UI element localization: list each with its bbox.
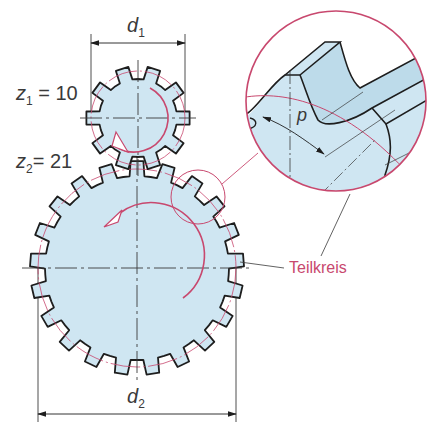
magnified-detail — [240, 11, 427, 200]
large-gear — [22, 153, 252, 383]
d2-label: d2 — [127, 385, 145, 411]
z1-label: z1 = 10 — [16, 82, 78, 108]
z2-label: z2= 21 — [16, 150, 72, 176]
small-gear — [80, 60, 196, 176]
gear-diagram: d1 z1 = 10 z2= 21 d2 p Teilkreis — [0, 0, 427, 432]
teilkreis-leaders — [240, 194, 350, 268]
gear-drawing — [0, 0, 427, 432]
detail-connector — [222, 153, 258, 184]
d1-label: d1 — [127, 14, 145, 40]
teilkreis-label: Teilkreis — [289, 259, 347, 277]
pitch-symbol: p — [297, 105, 307, 126]
